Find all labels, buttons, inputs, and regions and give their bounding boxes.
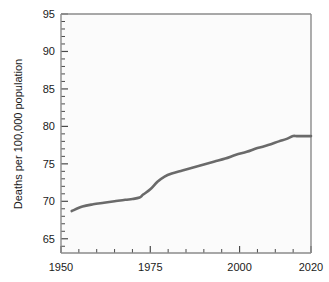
y-axis-tick-label: 80: [43, 120, 55, 132]
x-axis-tick-label: 2000: [227, 261, 251, 273]
x-axis-tick-label: 1950: [49, 261, 73, 273]
y-axis-tick-label: 95: [43, 8, 55, 20]
y-axis-tick-label: 85: [43, 83, 55, 95]
x-axis-tick-label: 1975: [138, 261, 162, 273]
x-axis-tick-label: 2020: [299, 261, 323, 273]
plot-area-background: [61, 14, 311, 253]
y-axis-tick-label: 65: [43, 233, 55, 245]
line-chart: 65707580859095 1950197520002020 Deaths p…: [0, 0, 329, 282]
y-axis-title: Deaths per 100,000 population: [12, 59, 24, 209]
y-axis-tick-label: 90: [43, 45, 55, 57]
chart-figure: 65707580859095 1950197520002020 Deaths p…: [0, 0, 329, 282]
x-axis-tick-labels: 1950197520002020: [49, 261, 323, 273]
y-axis-tick-label: 75: [43, 158, 55, 170]
y-axis-tick-labels: 65707580859095: [43, 8, 55, 245]
y-axis-tick-label: 70: [43, 195, 55, 207]
